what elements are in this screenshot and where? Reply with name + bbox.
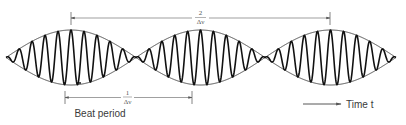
double-beat-dimension: 2 Δν	[71, 9, 330, 26]
top-fraction-denominator: Δν	[197, 18, 205, 26]
bottom-fraction-denominator: Δν	[124, 98, 132, 106]
beat-period-label: Beat period	[74, 108, 125, 119]
beat-diagram: 2 Δν 1 Δν Beat period Time t	[0, 0, 406, 125]
carrier-wave	[6, 30, 396, 85]
time-axis: Time t	[303, 99, 374, 110]
time-axis-label: Time t	[346, 99, 374, 110]
bottom-fraction-numerator: 1	[126, 89, 130, 97]
top-fraction-numerator: 2	[199, 9, 203, 17]
marker-dot	[79, 82, 81, 84]
beat-period-dimension: 1 Δν	[65, 89, 192, 106]
beat-waveform-figure: 2 Δν 1 Δν Beat period Time t	[0, 0, 406, 125]
